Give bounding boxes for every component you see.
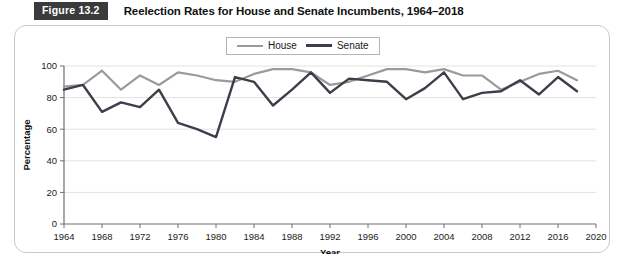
- y-axis-title: Percentage: [21, 119, 32, 170]
- x-tick-label: 1972: [129, 231, 150, 242]
- y-tick-label: 0: [52, 218, 57, 229]
- x-tick-label: 2004: [433, 231, 454, 242]
- x-tick-label: 2012: [509, 231, 530, 242]
- legend-entry-senate: Senate: [306, 40, 369, 51]
- y-tick-label: 20: [46, 187, 57, 198]
- chart-plot-area: 0204060801001964196819721976198019841988…: [15, 26, 611, 254]
- legend-entry-house: House: [237, 40, 297, 51]
- legend-swatch-senate-icon: [306, 44, 332, 47]
- chart-legend: House Senate: [226, 37, 380, 55]
- figure-header: Figure 13.2 Reelection Rates for House a…: [0, 0, 626, 22]
- legend-label-senate: Senate: [337, 40, 369, 51]
- legend-label-house: House: [268, 40, 297, 51]
- x-tick-label: 2008: [471, 231, 492, 242]
- y-tick-label: 100: [41, 60, 57, 71]
- x-axis-title: Year: [320, 247, 340, 254]
- figure-title: Reelection Rates for House and Senate In…: [124, 5, 464, 17]
- x-tick-label: 1996: [357, 231, 378, 242]
- figure-number-badge: Figure 13.2: [34, 2, 108, 20]
- legend-swatch-house-icon: [237, 45, 263, 47]
- x-tick-label: 1968: [91, 231, 112, 242]
- x-tick-label: 1980: [205, 231, 226, 242]
- x-tick-label: 1976: [167, 231, 188, 242]
- chart-card: 0204060801001964196819721976198019841988…: [14, 25, 610, 253]
- x-tick-label: 2000: [395, 231, 416, 242]
- y-tick-label: 60: [46, 124, 57, 135]
- x-tick-label: 2016: [547, 231, 568, 242]
- x-tick-label: 1988: [281, 231, 302, 242]
- x-tick-label: 1964: [53, 231, 74, 242]
- y-tick-label: 80: [46, 92, 57, 103]
- x-tick-label: 1992: [319, 231, 340, 242]
- line-chart-svg: 0204060801001964196819721976198019841988…: [15, 26, 611, 254]
- x-tick-label: 1984: [243, 231, 264, 242]
- series-line-house: [64, 69, 577, 90]
- series-line-senate: [64, 72, 577, 137]
- y-tick-label: 40: [46, 155, 57, 166]
- x-tick-label: 2020: [585, 231, 606, 242]
